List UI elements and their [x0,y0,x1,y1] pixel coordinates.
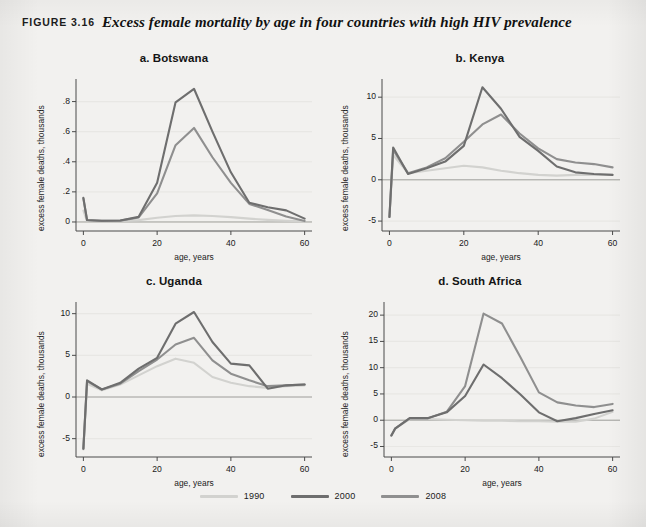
plot-area-south-africa: -5051015200204060age, yearsexcess female… [330,294,630,499]
y-axis [72,79,76,231]
chart-panel-botswana: a.Botswana 0.2.4.6.80204060age, yearsexc… [26,52,322,252]
x-tick-label: 60 [291,464,319,474]
x-tick-label: 40 [217,464,245,474]
x-tick-label: 60 [599,464,627,474]
chart-panel-uganda: c.Uganda -505100204060age, yearsexcess f… [26,275,322,480]
plot-area-kenya: -505100204060age, yearsexcess female dea… [330,71,630,271]
series-line-2000 [391,365,612,436]
series-line-2000 [83,312,304,449]
x-tick-label: 0 [69,238,97,248]
y-tick-label: 20 [342,309,378,319]
legend-item-1990: 1990 [200,491,265,501]
series-line-2000 [389,87,612,217]
panel-country: South Africa [452,275,522,287]
y-axis-label: excess female deaths, thousands [340,105,350,231]
plot-area-botswana: 0.2.4.6.80204060age, yearsexcess female … [26,71,322,271]
y-axis [72,302,76,457]
y-axis [380,302,384,457]
x-tick-label: 40 [217,238,245,248]
x-axis [76,457,312,461]
panel-letter: d. [438,275,449,287]
series-line-2008 [389,115,612,217]
legend-swatch-1990 [200,495,238,498]
gridlines [384,315,620,446]
figure-title: Excess female mortality by age in four c… [102,14,572,30]
legend-label-2008: 2008 [425,491,446,501]
x-tick-label: 40 [524,238,552,248]
y-axis-label: excess female deaths, thousands [340,331,350,457]
y-tick-label: 10 [34,308,70,318]
series-line-1990 [391,412,612,436]
x-tick-label: 20 [451,464,479,474]
panel-title-uganda: c.Uganda [26,275,322,287]
x-tick-label: 20 [143,464,171,474]
figure-caption: FIGURE 3.16Excess female mortality by ag… [22,13,572,31]
series-line-2008 [83,338,304,449]
x-axis-label: age, years [474,478,530,488]
x-axis-label: age, years [473,252,529,262]
x-tick-label: 40 [525,464,553,474]
figure-number: FIGURE 3.16 [22,16,95,28]
x-axis [382,231,620,235]
x-tick-label: 0 [377,464,405,474]
y-axis [378,79,382,231]
panel-title-kenya: b.Kenya [330,52,630,64]
legend-item-2000: 2000 [291,491,356,501]
series-line-2000 [83,89,304,221]
x-tick-label: 60 [291,238,319,248]
series-line-1990 [83,359,304,450]
panel-letter: c. [146,275,156,287]
y-tick-label: .8 [34,96,70,106]
gridlines [76,102,312,222]
legend-label-1990: 1990 [244,491,265,501]
plot-area-uganda: -505100204060age, yearsexcess female dea… [26,294,322,499]
panel-letter: b. [456,52,467,64]
chart-panel-south-africa: d.South Africa -5051015200204060age, yea… [330,275,630,480]
x-tick-label: 0 [69,464,97,474]
x-tick-label: 20 [450,238,478,248]
panel-country: Kenya [469,52,504,64]
figure-page: FIGURE 3.16Excess female mortality by ag… [0,0,646,527]
panel-letter: a. [140,52,150,64]
x-axis-label: age, years [166,478,222,488]
legend-item-2008: 2008 [381,491,446,501]
y-axis-label: excess female deaths, thousands [36,105,46,231]
y-axis-label: excess female deaths, thousands [36,331,46,457]
x-tick-label: 20 [143,238,171,248]
legend-label-2000: 2000 [335,491,356,501]
legend-swatch-2000 [291,495,329,498]
series-line-1990 [389,155,612,217]
panel-title-botswana: a.Botswana [26,52,322,64]
figure-legend: 199020002008 [0,491,646,501]
panel-country: Uganda [159,275,202,287]
x-tick-label: 0 [375,238,403,248]
legend-swatch-2008 [381,495,419,498]
x-axis [76,231,312,235]
chart-panel-kenya: b.Kenya -505100204060age, yearsexcess fe… [330,52,630,252]
y-tick-label: 10 [340,91,376,101]
x-axis [384,457,620,461]
panel-country: Botswana [153,52,209,64]
x-axis-label: age, years [166,252,222,262]
panel-title-south-africa: d.South Africa [330,275,630,287]
x-tick-label: 60 [599,238,627,248]
gridlines [76,314,312,439]
